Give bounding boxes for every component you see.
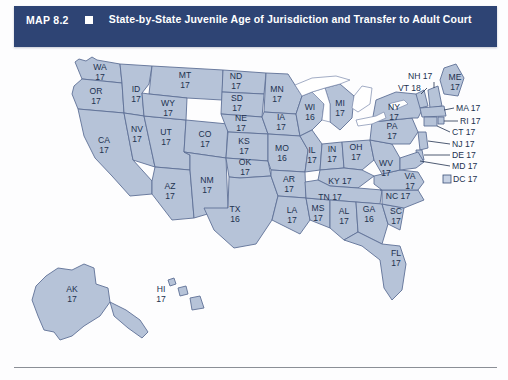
state-value-OR: 17: [91, 96, 101, 106]
state-label-HI: HI: [157, 284, 166, 294]
state-shape-NH[interactable]: [428, 86, 442, 108]
state-value-WA: 17: [95, 72, 105, 82]
filled-square-icon: [85, 16, 93, 24]
state-label-AR: AR: [283, 174, 295, 184]
state-label-MI: MI: [335, 98, 345, 108]
state-label-MN: MN: [270, 84, 283, 94]
map-title: State-by-State Juvenile Age of Jurisdict…: [109, 13, 472, 27]
state-label-NM: NM: [200, 175, 213, 185]
state-value-IL: 17: [307, 155, 317, 165]
state-shape-HI-3[interactable]: [190, 296, 204, 310]
state-label-NE: NE: [235, 113, 247, 123]
map-number-label: MAP 8.2: [26, 13, 69, 26]
state-value-ME: 17: [450, 82, 460, 92]
state-label-OR: OR: [90, 86, 103, 96]
state-shape-HI-2[interactable]: [178, 286, 188, 296]
state-value-NV: 17: [132, 134, 142, 144]
state-label-MT: MT: [179, 70, 192, 80]
state-value-WV: 17: [381, 168, 391, 178]
state-label-UT: UT: [160, 127, 172, 137]
state-label-TX: TX: [230, 204, 241, 214]
state-value-MT: 17: [180, 80, 190, 90]
state-shape-MA[interactable]: [420, 106, 446, 117]
state-value-AK: 17: [67, 294, 77, 304]
state-label-KY: KY 17: [328, 176, 351, 186]
state-label-WY: WY: [161, 98, 175, 108]
state-label-GA: GA: [363, 204, 376, 214]
state-value-MO: 16: [277, 153, 287, 163]
callout-label-DE: DE 17: [452, 150, 476, 160]
callout-label-VT: VT 18: [398, 83, 421, 93]
state-shape-ND[interactable]: [222, 70, 266, 94]
alaska-hawaii-group: [32, 264, 204, 340]
state-label-SC: SC: [390, 206, 402, 216]
state-value-NM: 17: [202, 185, 212, 195]
map-header-bar: MAP 8.2 State-by-State Juvenile Age of J…: [14, 6, 497, 47]
state-shape-CT[interactable]: [424, 117, 437, 126]
state-value-NE: 17: [236, 123, 246, 133]
state-label-VA: VA: [405, 171, 416, 181]
state-value-OH: 17: [351, 152, 361, 162]
state-label-MS: MS: [312, 203, 325, 213]
state-label-ME: ME: [449, 72, 462, 82]
callout-label-MD: MD 17: [452, 161, 478, 171]
state-label-AZ: AZ: [165, 181, 176, 191]
state-value-UT: 17: [161, 137, 171, 147]
state-value-MS: 17: [313, 213, 323, 223]
state-label-CO: CO: [199, 129, 212, 139]
state-value-CA: 17: [99, 145, 109, 155]
state-shape-HI[interactable]: [168, 278, 176, 286]
state-value-GA: 16: [364, 214, 374, 224]
state-label-FL: FL: [391, 248, 401, 258]
state-value-AR: 17: [284, 184, 294, 194]
state-label-AK: AK: [66, 284, 78, 294]
state-shape-RI[interactable]: [438, 117, 444, 124]
page-divider-rule: [14, 367, 497, 368]
state-value-AZ: 17: [165, 191, 175, 201]
callout-label-RI: RI 17: [460, 116, 481, 126]
callout-label-CT: CT 17: [452, 127, 475, 137]
state-value-SC: 17: [391, 216, 401, 226]
state-label-WA: WA: [93, 62, 107, 72]
map-page: MAP 8.2 State-by-State Juvenile Age of J…: [0, 0, 508, 380]
state-value-WI: 16: [305, 112, 315, 122]
state-label-NY: NY: [388, 102, 400, 112]
state-label-OH: OH: [350, 142, 363, 152]
state-label-WI: WI: [305, 102, 316, 112]
callout-label-MA: MA 17: [456, 103, 481, 113]
dc-legend-swatch: [443, 175, 451, 183]
leader-line-CT: [437, 126, 450, 132]
state-value-ID: 17: [131, 94, 141, 104]
state-value-HI: 17: [156, 294, 166, 304]
state-value-CO: 17: [200, 139, 210, 149]
state-value-IA: 17: [276, 122, 286, 132]
state-value-ND: 17: [231, 81, 241, 91]
state-label-SD: SD: [231, 93, 243, 103]
state-label-OK: OK: [239, 157, 252, 167]
state-label-ID: ID: [132, 84, 141, 94]
state-value-KS: 17: [239, 146, 249, 156]
state-label-TN: TN 17: [318, 192, 342, 202]
state-value-TX: 16: [230, 214, 240, 224]
state-value-MN: 17: [272, 94, 282, 104]
leader-line-MD: [420, 161, 450, 166]
state-value-FL: 17: [391, 258, 401, 268]
state-value-IN: 17: [327, 154, 337, 164]
us-map-figure: WA 17 OR 17 CA 17 ID 17 NV 17 UT 17 AZ 1…: [0, 48, 508, 350]
callout-label-DC: DC 17: [453, 174, 478, 184]
state-value-NY: 17: [389, 112, 399, 122]
state-value-LA: 17: [287, 215, 297, 225]
state-label-ND: ND: [230, 71, 242, 81]
state-shape-NJ[interactable]: [418, 132, 428, 150]
state-value-VA: 17: [405, 181, 415, 191]
state-shape-AK-panhandle[interactable]: [110, 302, 148, 338]
state-label-NV: NV: [131, 124, 143, 134]
leader-line-MA: [444, 108, 454, 110]
state-label-IN: IN: [328, 144, 337, 154]
state-label-IL: IL: [308, 145, 315, 155]
state-value-SD: 17: [232, 103, 242, 113]
state-label-KS: KS: [238, 136, 250, 146]
callout-label-NJ: NJ 17: [452, 139, 475, 149]
state-label-LA: LA: [287, 205, 298, 215]
state-label-NC: NC 17: [386, 191, 411, 201]
